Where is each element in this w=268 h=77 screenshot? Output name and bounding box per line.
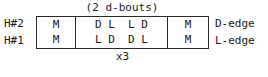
cell-h1-middle: L D D L bbox=[76, 33, 168, 49]
cell-h1-left: M bbox=[37, 33, 76, 49]
table-row: M D L L D M bbox=[37, 17, 208, 33]
cell-h2-left: M bbox=[37, 17, 76, 33]
top-caption: (2 d-bouts) bbox=[76, 1, 168, 15]
row-label-h2: H#2 bbox=[4, 16, 34, 33]
helix-bout-diagram: (2 d-bouts) H#2 H#1 M D L L D M M L D D … bbox=[0, 0, 268, 77]
row-label-d-edge: D-edge bbox=[215, 16, 268, 33]
bottom-caption: x3 bbox=[36, 50, 209, 64]
right-row-labels: D-edge L-edge bbox=[215, 16, 268, 49]
row-label-h1: H#1 bbox=[4, 33, 34, 50]
segment-grid: M D L L D M M L D D L M bbox=[36, 16, 209, 49]
table-row: M L D D L M bbox=[37, 33, 208, 49]
cell-h1-right: M bbox=[168, 33, 208, 49]
cell-h2-middle: D L L D bbox=[76, 17, 168, 33]
left-row-labels: H#2 H#1 bbox=[4, 16, 34, 49]
row-label-l-edge: L-edge bbox=[215, 33, 268, 50]
cell-h2-right: M bbox=[168, 17, 208, 33]
